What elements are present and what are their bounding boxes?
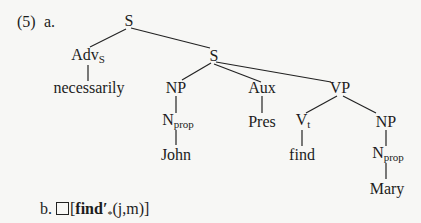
part-a-label: a. — [44, 13, 55, 31]
edge-s-s — [131, 28, 210, 48]
node-pres: Pres — [248, 113, 276, 131]
leaf-mary: Mary — [370, 180, 405, 198]
example-number: (5) — [17, 13, 36, 31]
node-v-t-sub: t — [307, 118, 310, 130]
node-v-t-base: V — [296, 111, 308, 128]
leaf-necessarily: necessarily — [53, 79, 124, 97]
edge-vp-np — [343, 96, 376, 113]
edge-s-advs — [90, 29, 126, 47]
node-np-object: NP — [376, 113, 396, 131]
node-s-inner: S — [210, 47, 219, 65]
edge-vp-vt — [306, 96, 337, 113]
part-b: b. [find′*(j,m)] — [40, 200, 149, 223]
node-adv-s: AdvS — [71, 46, 105, 68]
necessity-box-icon — [56, 202, 69, 215]
node-vp: VP — [330, 79, 350, 97]
leaf-find: find — [289, 146, 315, 164]
node-v-t: Vt — [296, 111, 311, 133]
node-nprop-john-base: N — [162, 111, 174, 128]
formula-predicate: find′ — [75, 200, 107, 217]
node-adv-s-base: Adv — [71, 46, 99, 63]
leaf-john: John — [161, 146, 191, 164]
formula-close: ] — [144, 200, 149, 217]
node-aux: Aux — [248, 79, 276, 97]
node-s-root: S — [125, 12, 134, 30]
node-adv-s-sub: S — [99, 53, 105, 65]
node-nprop-mary-sub: prop — [384, 151, 404, 163]
edge-s-np — [182, 63, 211, 80]
node-nprop-john-sub: prop — [174, 118, 194, 130]
formula-args: (j,m) — [112, 200, 144, 217]
part-b-label: b. — [40, 200, 52, 217]
node-np-subject: NP — [166, 79, 186, 97]
node-nprop-mary: Nprop — [372, 144, 404, 166]
node-nprop-mary-base: N — [372, 144, 384, 161]
node-nprop-john: Nprop — [162, 111, 194, 133]
tree-edges — [0, 0, 421, 223]
